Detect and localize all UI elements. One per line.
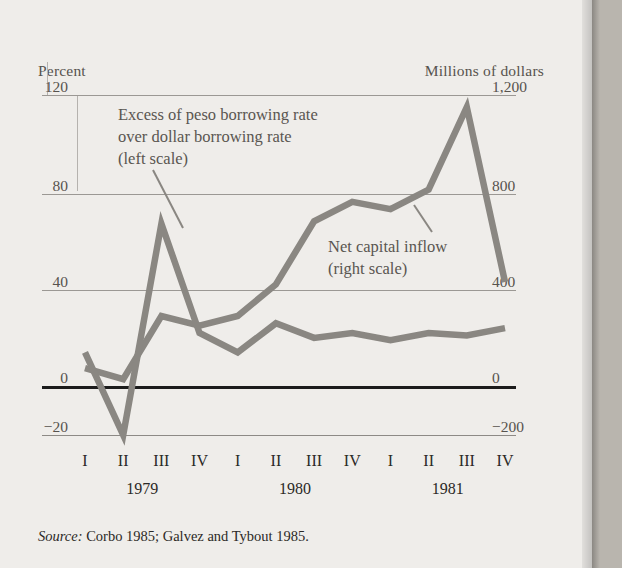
left-tick-120: 120 bbox=[0, 78, 68, 96]
x-tick-quarter: I bbox=[220, 452, 256, 470]
x-axis-year: 1979 bbox=[107, 480, 177, 498]
figure-page: Percent Millions of dollars 120 80 40 0 … bbox=[0, 0, 622, 568]
x-axis-year: 1981 bbox=[413, 480, 483, 498]
left-tick-80: 80 bbox=[0, 177, 68, 195]
gridline-80 bbox=[42, 194, 516, 195]
gridline-zero bbox=[42, 386, 516, 389]
gridline-120 bbox=[42, 95, 516, 96]
x-tick-quarter: III bbox=[449, 452, 485, 470]
source-text: Corbo 1985; Galvez and Tybout 1985. bbox=[86, 528, 309, 544]
source-label: Source: bbox=[38, 528, 83, 544]
right-tick-400: 400 bbox=[492, 273, 588, 291]
source-note: Source: Corbo 1985; Galvez and Tybout 19… bbox=[38, 528, 309, 545]
annotation-peso-line1: Excess of peso borrowing rate bbox=[118, 104, 318, 126]
left-tick-0: 0 bbox=[0, 369, 68, 387]
right-tick-0: 0 bbox=[492, 369, 588, 387]
left-tick-40: 40 bbox=[0, 273, 68, 291]
x-tick-quarter: III bbox=[296, 452, 332, 470]
x-tick-quarter: IV bbox=[182, 452, 218, 470]
x-axis-year: 1980 bbox=[260, 480, 330, 498]
annotation-inflow-line1: Net capital inflow bbox=[328, 236, 447, 258]
annotation-net-capital-inflow: Net capital inflow (right scale) bbox=[328, 236, 447, 280]
gridline-minus20 bbox=[42, 435, 516, 436]
right-tick-minus200: −200 bbox=[492, 418, 588, 436]
right-tick-800: 800 bbox=[492, 177, 588, 195]
annotation-peso-line3: (left scale) bbox=[118, 148, 318, 170]
x-tick-quarter: II bbox=[258, 452, 294, 470]
vtick-left-mid bbox=[77, 96, 78, 191]
x-tick-quarter: IV bbox=[334, 452, 370, 470]
page-gutter bbox=[592, 0, 622, 568]
x-tick-quarter: III bbox=[143, 452, 179, 470]
annotation-peso-rate: Excess of peso borrowing rate over dolla… bbox=[118, 104, 318, 170]
x-tick-quarter: I bbox=[67, 452, 103, 470]
x-tick-quarter: I bbox=[372, 452, 408, 470]
annotation-peso-line2: over dollar borrowing rate bbox=[118, 126, 318, 148]
x-tick-quarter: II bbox=[105, 452, 141, 470]
gridline-40 bbox=[42, 290, 516, 291]
x-tick-quarter: II bbox=[411, 452, 447, 470]
right-tick-1200: 1,200 bbox=[492, 78, 588, 96]
x-tick-quarter: IV bbox=[487, 452, 523, 470]
annotation-inflow-line2: (right scale) bbox=[328, 258, 447, 280]
left-tick-minus20: −20 bbox=[0, 418, 68, 436]
